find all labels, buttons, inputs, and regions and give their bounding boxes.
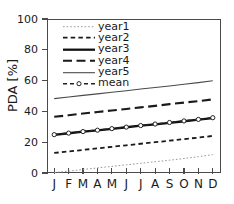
chart-legend: year1year2year3year4year5mean [62, 21, 154, 89]
series-line-year4 [54, 99, 213, 116]
legend-swatch-year1 [62, 21, 96, 32]
series-line-mean [54, 118, 213, 135]
series-marker-mean [139, 123, 143, 127]
series-line-year2 [54, 136, 213, 153]
series-marker-mean [95, 128, 99, 132]
legend-item-mean[interactable]: mean [62, 78, 154, 89]
legend-label-mean: mean [98, 77, 129, 88]
legend-label-year3: year3 [98, 43, 130, 54]
legend-swatch-year4 [62, 55, 96, 66]
series-line-year1 [54, 155, 213, 173]
series-marker-mean [110, 127, 114, 131]
series-marker-mean [153, 122, 157, 126]
series-marker-mean [81, 129, 85, 133]
series-marker-mean [182, 119, 186, 123]
series-marker-mean [52, 133, 56, 137]
legend-swatch-mean [62, 78, 96, 89]
series-marker-mean [196, 117, 200, 121]
series-marker-mean [124, 125, 128, 129]
series-marker-mean [167, 120, 171, 124]
series-marker-mean [67, 131, 71, 135]
legend-swatch-year5 [62, 67, 96, 78]
legend-swatch-year3 [62, 44, 96, 55]
legend-swatch-year2 [62, 32, 96, 43]
chart-container: PDA [%] 020406080100 JFMAMJJASOND year1y… [0, 0, 234, 204]
series-marker-mean [211, 116, 215, 120]
